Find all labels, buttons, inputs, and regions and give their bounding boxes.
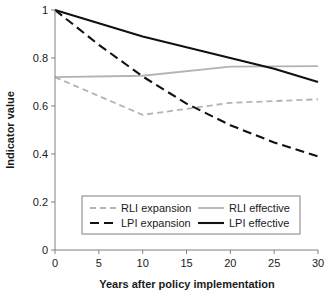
x-axis-title: Years after policy implementation [99, 278, 275, 290]
legend-label: RLI expansion [121, 202, 191, 214]
y-tick-label: 0 [42, 244, 48, 256]
y-axis-title: Indicator value [4, 91, 16, 169]
chart-legend: RLI expansionRLI effectiveLPI expansionL… [82, 196, 300, 234]
line-chart: 00.20.40.60.81051015202530 RLI expansion… [0, 0, 335, 296]
y-tick-label: 0.6 [33, 100, 48, 112]
y-tick-label: 1 [42, 4, 48, 16]
series-line-lpi-expansion [55, 10, 318, 156]
legend-label: LPI expansion [121, 217, 191, 229]
x-tick-label: 10 [137, 257, 149, 269]
x-tick-label: 20 [224, 257, 236, 269]
x-tick-label: 30 [312, 257, 324, 269]
legend-label: LPI effective [229, 217, 289, 229]
series-line-rli-expansion [55, 77, 318, 115]
x-tick-label: 25 [268, 257, 280, 269]
y-tick-label: 0.4 [33, 148, 48, 160]
x-tick-label: 0 [52, 257, 58, 269]
y-tick-label: 0.2 [33, 196, 48, 208]
legend-label: RLI effective [229, 202, 290, 214]
plot-area [55, 10, 318, 156]
chart-figure: 00.20.40.60.81051015202530 RLI expansion… [0, 0, 335, 296]
series-line-rli-effective [55, 66, 318, 77]
x-tick-label: 15 [180, 257, 192, 269]
x-tick-label: 5 [96, 257, 102, 269]
y-tick-label: 0.8 [33, 52, 48, 64]
